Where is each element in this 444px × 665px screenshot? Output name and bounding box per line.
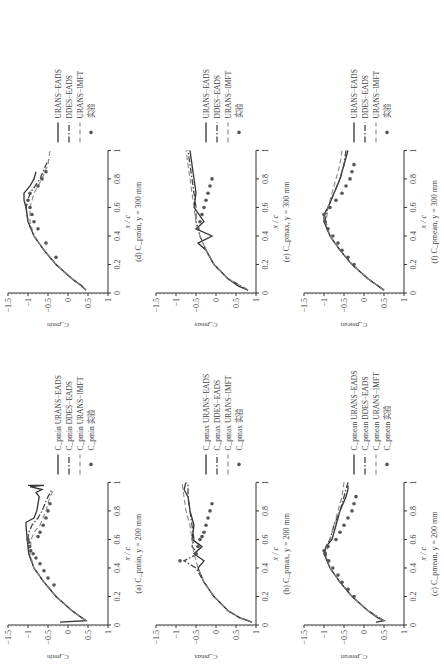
y-tick-label: 0 [212, 298, 221, 302]
y-tick-label: 1 [252, 298, 261, 302]
figure-stage: −1.5−1−0.500.5100.20.40.60.81x / cC_pmin… [0, 0, 444, 665]
y-tick-label: 0 [360, 298, 369, 302]
data-point-experiment [178, 559, 182, 563]
data-point-experiment [44, 516, 48, 520]
panel-caption: (b) C_pmax, y = 200 mm [282, 512, 291, 594]
data-point-experiment [36, 535, 40, 539]
series-line-URANS−EADS [24, 172, 86, 290]
data-point-experiment [350, 170, 354, 174]
series-line-URANS−IMFT [182, 482, 252, 622]
x-tick-label: 0.8 [261, 174, 270, 184]
panel-caption: (e) C_pmax, y = 300 mm [282, 180, 291, 262]
legend-label: URANS−IMFT [224, 70, 233, 118]
x-tick-label: 0.2 [113, 259, 122, 269]
legend-label: C_pmean URANS−IMFT [372, 372, 381, 451]
data-point-experiment [326, 545, 330, 549]
data-point-experiment [348, 177, 352, 181]
x-tick-label: 0.6 [261, 202, 270, 212]
data-point-experiment [344, 184, 348, 188]
data-point-experiment [210, 502, 214, 506]
legend-marker [89, 131, 93, 135]
x-tick-label: 0.4 [261, 231, 270, 241]
data-point-experiment [334, 199, 338, 203]
legend-label: C_pmin URANS−IMFT [76, 376, 85, 450]
data-point-experiment [44, 170, 48, 174]
legend-label: URANS−IMFT [372, 70, 381, 118]
legend-label: C_pmax DDES−EADS [213, 380, 222, 451]
x-tick-label: 0.6 [409, 534, 418, 544]
data-point-experiment [331, 234, 335, 238]
data-point-experiment [346, 516, 350, 520]
y-tick-label: −1 [320, 630, 329, 639]
x-tick-label: 0.6 [113, 534, 122, 544]
y-tick-label: −0.5 [44, 298, 53, 313]
data-point-experiment [326, 227, 330, 231]
x-tick-label: 1 [409, 148, 418, 152]
data-point-experiment [200, 213, 204, 217]
x-tick-label: 0.2 [261, 259, 270, 269]
legend-label: DDES−EADS [65, 75, 74, 118]
x-tick-label: 0.2 [409, 259, 418, 269]
y-tick-label: −0.5 [340, 630, 349, 645]
legend-marker [385, 463, 389, 467]
panel-e: −1.5−1−0.500.5100.20.40.60.81x / cC_pmax… [148, 1, 296, 333]
series-line-URANS−IMFT [30, 490, 86, 621]
x-tick-label: 0 [409, 623, 418, 627]
y-tick-label: 1 [104, 630, 113, 634]
y-tick-label: 1 [400, 630, 409, 634]
legend-label: URANS−EADS [350, 69, 359, 118]
y-tick-label: −0.5 [44, 630, 53, 645]
series-line-URANS−EADS [324, 150, 384, 290]
data-point-experiment [30, 213, 34, 217]
data-point-experiment [200, 535, 204, 539]
data-point-experiment [340, 191, 344, 195]
data-point-experiment [328, 206, 332, 210]
panel-a: −1.5−1−0.500.5100.20.40.60.81x / cC_pmin… [0, 333, 148, 665]
data-point-experiment [42, 569, 46, 573]
panel-b: −1.5−1−0.500.5100.20.40.60.81x / cC_pmax… [148, 333, 296, 665]
legend-label: C_pmin 实验 [86, 409, 96, 450]
x-axis-label: x / c [419, 547, 428, 562]
y-axis-label: C_pmax [193, 321, 217, 329]
data-point-experiment [26, 199, 30, 203]
data-point-experiment [29, 549, 33, 553]
x-axis-label: x / c [123, 215, 132, 230]
legend-label: 实验 [234, 103, 244, 118]
y-tick-label: 0 [212, 630, 221, 634]
data-point-experiment [202, 531, 206, 535]
data-point-experiment [46, 576, 50, 580]
y-tick-label: 0.5 [380, 630, 389, 640]
y-axis-label: C_pmean [340, 653, 367, 661]
x-tick-label: 1 [261, 148, 270, 152]
x-tick-label: 0.4 [261, 563, 270, 573]
data-point-experiment [40, 177, 44, 181]
data-point-experiment [352, 163, 356, 167]
legend-label: C_pmax URANS−EADS [202, 374, 211, 451]
y-tick-label: −1.5 [4, 630, 13, 645]
data-point-experiment [340, 580, 344, 584]
chart-e: −1.5−1−0.500.5100.20.40.60.81x / cC_pmax… [148, 1, 296, 333]
data-point-experiment [340, 248, 344, 252]
x-tick-label: 0.4 [409, 231, 418, 241]
y-axis-label: C_pmean [340, 321, 367, 329]
data-point-experiment [196, 545, 200, 549]
series-line-URANS−IMFT [186, 150, 248, 290]
x-tick-label: 1 [261, 480, 270, 484]
data-point-experiment [46, 509, 50, 513]
data-point-experiment [334, 538, 338, 542]
x-tick-label: 0 [113, 291, 122, 295]
y-tick-label: 0.5 [84, 630, 93, 640]
data-point-experiment [204, 199, 208, 203]
y-tick-label: 1 [252, 630, 261, 634]
y-tick-label: −1 [24, 298, 33, 307]
data-point-experiment [44, 241, 48, 245]
x-tick-label: 0.8 [113, 174, 122, 184]
data-point-experiment [41, 523, 45, 527]
panel-caption: (a) C_pmin, y = 200 mm [134, 513, 143, 593]
panel-caption: (f) C_pmean, y = 300 mm [430, 179, 439, 263]
data-point-experiment [338, 531, 342, 535]
data-point-experiment [336, 573, 340, 577]
chart-b: −1.5−1−0.500.5100.20.40.60.81x / cC_pmax… [148, 333, 296, 665]
panel-f: −1.5−1−0.500.5100.20.40.60.81x / cC_pmea… [296, 1, 444, 333]
x-tick-label: 1 [113, 148, 122, 152]
